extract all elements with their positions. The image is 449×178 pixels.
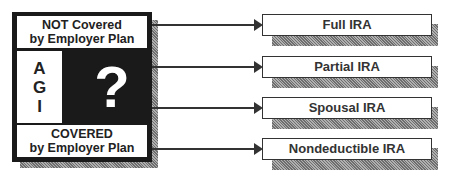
agi-label: A G I [17, 51, 62, 123]
covered-label: COVERED by Employer Plan [17, 125, 147, 157]
arrow-icon-spousal [152, 107, 256, 109]
agi-letter-a: A [17, 59, 62, 78]
question-mark-icon: ? [82, 52, 142, 122]
eligibility-box: NOT Covered by Employer Plan A G I ? COV… [12, 12, 152, 162]
covered-line2: by Employer Plan [17, 141, 147, 155]
outcome-full-ira: Full IRA [262, 14, 432, 36]
arrow-icon-partial [152, 66, 256, 68]
agi-letter-g: G [17, 78, 62, 97]
outcome-spousal-ira: Spousal IRA [262, 97, 432, 119]
not-covered-line2: by Employer Plan [17, 32, 147, 46]
arrow-icon-nondeductible [152, 148, 256, 150]
covered-line1: COVERED [17, 127, 147, 141]
arrow-icon-full [152, 24, 256, 26]
outcome-partial-ira: Partial IRA [262, 56, 432, 78]
agi-letter-i: I [17, 97, 62, 116]
outcome-nondeductible-ira: Nondeductible IRA [262, 138, 432, 160]
not-covered-label: NOT Covered by Employer Plan [17, 16, 147, 48]
not-covered-line1: NOT Covered [17, 18, 147, 32]
